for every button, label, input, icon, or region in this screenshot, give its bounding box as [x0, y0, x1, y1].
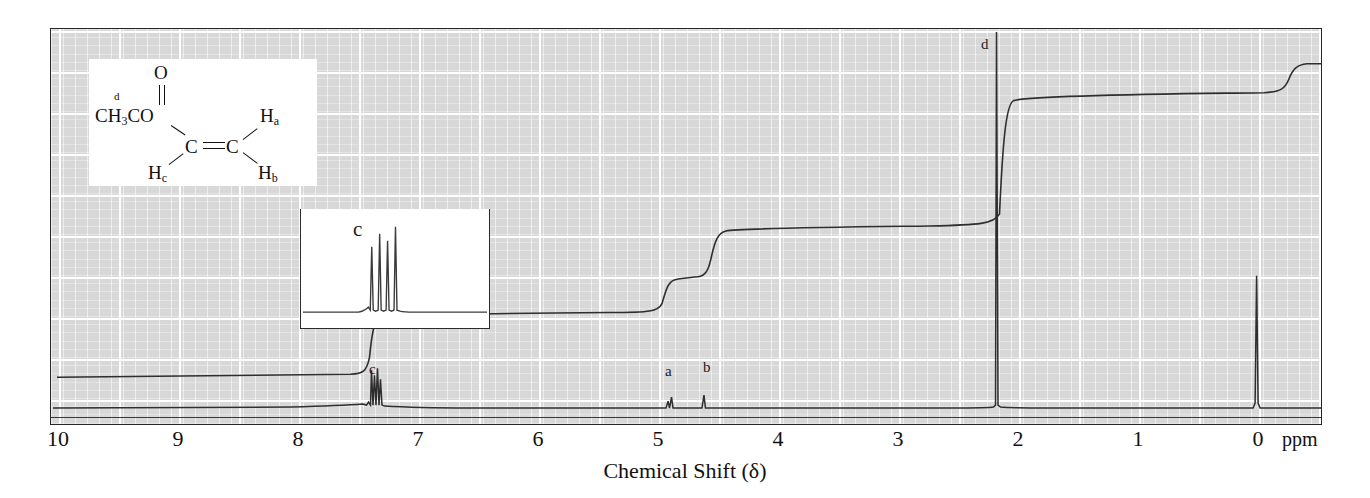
x-tick-10: 10	[47, 428, 69, 450]
x-tick-9: 9	[173, 428, 184, 450]
h-a-subscript: a	[274, 114, 279, 128]
ester-oxygen-to-vinyl-bond	[171, 125, 186, 136]
peak-label-c: c	[369, 362, 376, 377]
x-tick-1: 1	[1133, 428, 1144, 450]
x-axis: 10 9 8 7 6 5 4 3 2 1 0 ppm	[50, 425, 1322, 455]
peak-label-a: a	[665, 364, 672, 379]
x-tick-2: 2	[1013, 428, 1024, 450]
structure-h-b: Hb	[258, 163, 278, 184]
acetyl-co: CO	[127, 105, 153, 126]
h-b-subscript: b	[272, 171, 278, 185]
plot-area: O d CH3CO C C Ha Hb	[50, 28, 1322, 425]
bond-to-h-c	[169, 153, 184, 165]
peak-label-b: b	[703, 360, 711, 375]
nmr-spectrum-figure: O d CH3CO C C Ha Hb	[0, 0, 1370, 498]
structure-h-c: Hc	[148, 163, 167, 184]
x-tick-4: 4	[773, 428, 784, 450]
structure-vinyl-carbon-right: C	[226, 137, 239, 156]
peak-label-d: d	[981, 37, 989, 52]
carbonyl-double-bond-line-1	[159, 85, 160, 105]
vinyl-double-bond-line-1	[203, 142, 225, 143]
h-b-symbol: H	[258, 162, 272, 183]
x-tick-5: 5	[653, 428, 664, 450]
x-axis-unit: ppm	[1282, 429, 1318, 449]
x-axis-title: Chemical Shift (δ)	[0, 458, 1370, 484]
h-c-symbol: H	[148, 162, 162, 183]
carbonyl-double-bond-line-2	[164, 85, 165, 105]
x-tick-8: 8	[293, 428, 304, 450]
vinyl-double-bond-line-2	[203, 148, 225, 149]
structure-label-d: d	[114, 91, 120, 102]
structure-h-a: Ha	[260, 106, 279, 127]
h-c-subscript: c	[162, 171, 167, 185]
h-a-symbol: H	[260, 105, 274, 126]
expansion-inset: c	[300, 209, 490, 329]
bond-to-h-b	[243, 152, 258, 164]
x-tick-7: 7	[413, 428, 424, 450]
structure-acetyl-group: CH3CO	[95, 106, 154, 127]
structure-inset: O d CH3CO C C Ha Hb	[89, 59, 317, 186]
bond-to-h-a	[243, 128, 258, 140]
x-tick-6: 6	[533, 428, 544, 450]
expansion-multiplet-trace	[301, 209, 489, 328]
structure-vinyl-carbon-left: C	[185, 137, 198, 156]
x-tick-3: 3	[893, 428, 904, 450]
x-tick-0: 0	[1253, 428, 1264, 450]
acetyl-ch: CH	[95, 105, 121, 126]
structure-carbonyl-oxygen: O	[154, 63, 168, 82]
